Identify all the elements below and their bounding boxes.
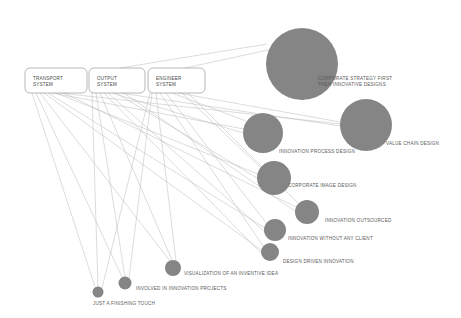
bubble-innovation-process-design[interactable] [243,113,283,153]
system-node-box[interactable] [89,68,145,93]
bubble-label-just-a-finishing-touch: JUST A FINISHING TOUCH [93,301,155,306]
bubble-just-a-finishing-touch[interactable] [93,287,104,298]
system-node-label-line1: ENGINEER [156,76,182,81]
bubble-corporate-strategy-first[interactable] [266,28,338,100]
edge-output-system-to-innovation-process-design [112,93,243,133]
bubble-label-line1: JUST A FINISHING TOUCH [93,301,155,306]
bubble-visualization-of-an-inventive-idea[interactable] [165,260,181,276]
bubble-label-innovation-process-design: INNOVATION PROCESS DESIGN [279,149,355,154]
system-node-label-line1: TRANSPORT [33,76,63,81]
bubble-label-corporate-strategy-first: CORPORATE STRATEGY FIRSTTHEN INNOVATIVE … [318,76,392,87]
bubble-innovation-outsourced[interactable] [295,200,319,224]
edge-transport-system-to-design-driven-innovation [44,93,261,250]
system-node-label-line2: SYSTEM [156,82,176,87]
edge-output-system-to-corporate-strategy-first [120,44,267,68]
edge-transport-system-to-involved-in-innovation-projects [36,93,122,277]
system-node-output-system[interactable]: OUTPUTSYSTEM [89,68,145,93]
edge-engineer-system-to-design-driven-innovation [160,93,263,246]
diagram-canvas: TRANSPORTSYSTEMOUTPUTSYSTEMENGINEERSYSTE… [0,0,461,318]
system-node-label-line1: OUTPUT [97,76,117,81]
system-boxes-layer: TRANSPORTSYSTEMOUTPUTSYSTEMENGINEERSYSTE… [25,68,205,93]
edge-engineer-system-to-corporate-strategy-first [185,50,268,68]
bubble-label-line1: DESIGN DRIVEN INNOVATION [283,259,354,264]
bubble-label-corporate-image-design: CORPORATE IMAGE DESIGN [288,183,357,188]
system-node-label-line2: SYSTEM [33,82,53,87]
edge-transport-system-to-corporate-image-design [56,93,258,174]
bubble-label-innovation-without-any-client: INNOVATION WITHOUT ANY CLIENT [288,236,373,241]
bubble-label-line1: INNOVATION OUTSOURCED [325,218,392,223]
edge-output-system-to-design-driven-innovation [104,93,261,253]
network-diagram-svg: TRANSPORTSYSTEMOUTPUTSYSTEMENGINEERSYSTE… [0,0,461,318]
bubble-label-line1: VISUALIZATION OF AN INVENTIVE IDEA [184,271,279,276]
bubble-corporate-image-design[interactable] [257,161,291,195]
system-node-transport-system[interactable]: TRANSPORTSYSTEM [25,68,87,93]
bubble-label-line1: INVOLVED IN INNOVATION PROJECTS [136,286,227,291]
bubble-value-chain-design[interactable] [340,99,392,151]
bubble-label-line1: VALUE CHAIN DESIGN [386,141,439,146]
bubble-label-design-driven-innovation: DESIGN DRIVEN INNOVATION [283,259,354,264]
bubble-involved-in-innovation-projects[interactable] [119,277,132,290]
system-node-box[interactable] [148,68,205,93]
bubble-label-value-chain-design: VALUE CHAIN DESIGN [386,141,439,146]
bubble-label-involved-in-innovation-projects: INVOLVED IN INNOVATION PROJECTS [136,286,227,291]
bubble-design-driven-innovation[interactable] [261,243,279,261]
bubble-label-line1: CORPORATE IMAGE DESIGN [288,183,357,188]
edge-transport-system-to-just-a-finishing-touch [32,93,95,287]
system-node-box[interactable] [25,68,87,93]
bubble-label-visualization-of-an-inventive-idea: VISUALIZATION OF AN INVENTIVE IDEA [184,271,279,276]
bubble-label-line1: CORPORATE STRATEGY FIRST [318,76,392,81]
system-node-engineer-system[interactable]: ENGINEERSYSTEM [148,68,205,93]
edge-engineer-system-to-innovation-process-design [172,93,246,121]
system-node-label-line2: SYSTEM [97,82,117,87]
bubble-innovation-without-any-client[interactable] [264,219,286,241]
system-node-label: OUTPUTSYSTEM [97,76,117,87]
edge-output-system-to-innovation-without-any-client [108,93,264,231]
edge-engineer-system-to-just-a-finishing-touch [102,93,150,288]
bubble-label-line1: INNOVATION WITHOUT ANY CLIENT [288,236,373,241]
bubble-label-line2: THEN INNOVATIVE DESIGNS [318,82,386,87]
edge-engineer-system-to-involved-in-innovation-projects [129,93,152,278]
edge-engineer-system-to-visualization-of-an-inventive-idea [156,93,176,261]
bubble-label-innovation-outsourced: INNOVATION OUTSOURCED [325,218,392,223]
bubble-label-line1: INNOVATION PROCESS DESIGN [279,149,355,154]
edge-output-system-to-corporate-image-design [116,93,257,178]
edge-transport-system-to-innovation-without-any-client [48,93,265,228]
